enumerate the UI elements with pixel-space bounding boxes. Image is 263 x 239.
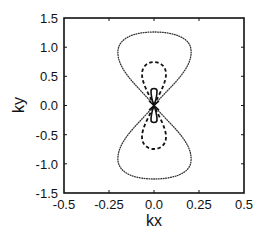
y-axis-label: ky [10,97,27,113]
lobe-chart: 1.5 1.0 0.5 0.0 -0.5 -1.0 -1.5 -0.5 -0.2… [0,0,263,239]
x-tick-label: -0.5 [53,197,75,212]
x-tick-label: 0.5 [235,197,253,212]
y-tick-label: -1.0 [36,157,58,172]
x-tick-label: 0.25 [186,197,211,212]
origin-marker [149,101,159,110]
y-tick-label: 1.0 [40,40,58,55]
y-tick-label: -0.5 [36,128,58,143]
x-tick-labels: -0.5 -0.25 0.0 0.25 0.5 [53,197,253,212]
x-tick-label: -0.25 [94,197,124,212]
x-tick-label: 0.0 [145,197,163,212]
x-axis-label: kx [146,212,162,229]
y-tick-label: 1.5 [40,11,58,26]
y-tick-labels: 1.5 1.0 0.5 0.0 -0.5 -1.0 -1.5 [36,11,58,201]
y-tick-label: 0.5 [40,69,58,84]
y-tick-label: 0.0 [40,98,58,113]
